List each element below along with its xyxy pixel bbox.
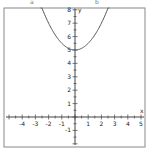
y-tick-label: 7: [67, 19, 71, 26]
y-tick-label: 6: [67, 33, 71, 40]
x-tick-label: -4: [19, 120, 25, 127]
y-tick-label: -1: [65, 126, 71, 133]
x-tick-label: -2: [46, 120, 52, 127]
y-axis-label: y: [78, 6, 82, 14]
y-tick-label: 2: [67, 86, 71, 93]
chart-ticks: -4-3-2-112345-112345678xy: [9, 6, 144, 144]
x-tick-label: 5: [139, 120, 143, 127]
x-tick-label: 2: [99, 120, 103, 127]
y-tick-label: 8: [67, 6, 71, 13]
x-tick-label: -3: [32, 120, 38, 127]
y-tick-label: 4: [67, 59, 71, 66]
x-tick-label: 1: [86, 120, 90, 127]
x-tick-label: 3: [113, 120, 117, 127]
x-axis-label: x: [140, 107, 144, 114]
chart-plot: -4-3-2-112345-112345678xy: [0, 0, 146, 150]
y-tick-label: 3: [67, 73, 71, 80]
y-tick-label: 1: [67, 100, 71, 107]
x-tick-label: 4: [126, 120, 130, 127]
